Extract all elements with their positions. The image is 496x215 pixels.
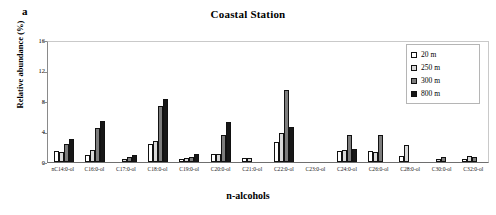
legend-label: 20 m (421, 51, 436, 59)
x-axis-tick-label: C24:0-ol (331, 166, 363, 173)
y-axis-title: Relative abundance (%) (16, 0, 25, 130)
x-axis-tick-label: C20:0-ol (205, 166, 237, 173)
legend-swatch-icon (411, 91, 417, 97)
legend-item: 20 m (411, 48, 475, 61)
legend-item: 300 m (411, 74, 475, 87)
bar-group (205, 42, 236, 162)
bar (194, 154, 199, 162)
x-axis-tick-label: C28:0-ol (394, 166, 426, 173)
x-axis-tick-label: C19:0-ol (173, 166, 205, 173)
chart-title: Coastal Station (0, 8, 496, 20)
bar-group (237, 42, 268, 162)
y-axis-tick-mark (43, 163, 47, 164)
legend-label: 250 m (421, 64, 440, 72)
bar-group (174, 42, 205, 162)
bar (226, 122, 231, 162)
bar (352, 149, 357, 162)
bar-group (79, 42, 110, 162)
legend-label: 800 m (421, 90, 440, 98)
legend: 20 m250 m300 m800 m (406, 44, 480, 104)
x-axis-tick-label: C17:0-ol (110, 166, 142, 173)
x-axis-tick-label: C32:0-ol (458, 166, 490, 173)
legend-swatch-icon (411, 52, 417, 58)
x-axis-tick-label: C30:0-ol (426, 166, 458, 173)
x-axis-tick-label: C16:0-ol (79, 166, 111, 173)
x-axis-tick-label: nC14:0-ol (47, 166, 79, 173)
bar-group (268, 42, 299, 162)
x-axis-title: n-alcohols (0, 190, 496, 201)
legend-item: 800 m (411, 87, 475, 100)
bar (100, 121, 105, 162)
bar-group (299, 42, 330, 162)
legend-swatch-icon (411, 65, 417, 71)
bar (289, 127, 294, 162)
bar-group (142, 42, 173, 162)
bar (441, 157, 446, 162)
legend-label: 300 m (421, 77, 440, 85)
bar (378, 135, 383, 162)
x-axis-tick-label: C18:0-ol (142, 166, 174, 173)
x-axis-tick-label: C21:0-ol (236, 166, 268, 173)
bar (472, 157, 477, 162)
x-axis-tick-label: C22:0-ol (268, 166, 300, 173)
x-axis-tick-label: C23:0-ol (300, 166, 332, 173)
bar (132, 155, 137, 162)
bar-group (331, 42, 362, 162)
bar-group (111, 42, 142, 162)
bar (404, 145, 409, 162)
bar (247, 158, 252, 162)
bar-group (48, 42, 79, 162)
x-axis-tick-label: C26:0-ol (363, 166, 395, 173)
legend-item: 250 m (411, 61, 475, 74)
bar (69, 139, 74, 162)
x-axis-tick-labels: nC14:0-olC16:0-olC17:0-olC18:0-olC19:0-o… (47, 166, 489, 173)
legend-swatch-icon (411, 78, 417, 84)
bar-group (362, 42, 393, 162)
bar (163, 99, 168, 162)
